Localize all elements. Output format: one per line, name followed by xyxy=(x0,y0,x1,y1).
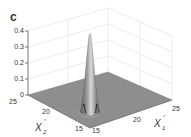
x1-axis-label: X 1 ′ xyxy=(153,114,165,131)
z-axis xyxy=(25,31,28,95)
x2-axis-label: X 2 ′ xyxy=(34,118,47,135)
svg-text:20: 20 xyxy=(133,116,141,123)
svg-text:0.4: 0.4 xyxy=(14,27,24,34)
svg-text:25: 25 xyxy=(172,105,180,112)
svg-text:2: 2 xyxy=(42,129,47,135)
surface-floor xyxy=(28,72,172,128)
svg-text:0.1: 0.1 xyxy=(14,75,24,82)
svg-text:1: 1 xyxy=(162,125,165,131)
panel-label: c xyxy=(10,10,17,24)
svg-text:0.2: 0.2 xyxy=(14,59,24,66)
svg-text:′: ′ xyxy=(163,114,165,121)
svg-text:0: 0 xyxy=(20,91,24,98)
svg-text:20: 20 xyxy=(42,108,50,115)
svg-text:0.3: 0.3 xyxy=(14,43,24,50)
svg-text:X: X xyxy=(34,122,42,133)
surface-plot: c 0.4 0.3 0.2 0.1 0 25 20 15 15 20 25 X … xyxy=(0,0,191,137)
svg-text:25: 25 xyxy=(9,98,17,105)
z-tick-labels: 0.4 0.3 0.2 0.1 0 xyxy=(14,27,24,98)
surface-peak xyxy=(80,34,100,117)
svg-text:15: 15 xyxy=(92,127,100,134)
svg-text:X: X xyxy=(153,118,161,129)
svg-text:′: ′ xyxy=(44,118,46,125)
svg-text:15: 15 xyxy=(75,125,83,132)
